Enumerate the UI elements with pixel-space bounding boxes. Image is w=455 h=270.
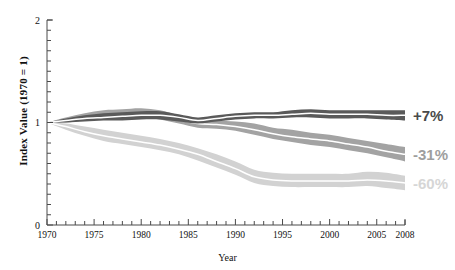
x-tick-label: 2000 — [320, 230, 339, 240]
series-end-label-+7%: +7% — [413, 107, 443, 124]
y-tick-label: 2 — [35, 15, 40, 26]
chart-figure: 012197019751980198519901995200020052008+… — [0, 0, 455, 270]
index-value-line-chart: 012197019751980198519901995200020052008+… — [0, 0, 455, 270]
series-band--60% — [47, 123, 405, 191]
y-tick-label: 0 — [35, 220, 40, 231]
x-tick-label: 1990 — [226, 230, 245, 240]
y-tick-label: 1 — [35, 117, 40, 128]
x-tick-label: 1970 — [38, 230, 57, 240]
x-tick-label: 2005 — [367, 230, 386, 240]
y-axis-title: Index Value (1970 = 1) — [17, 36, 29, 186]
x-axis-title: Year — [0, 252, 455, 263]
x-tick-label: 1980 — [132, 230, 151, 240]
series-end-label--60%: -60% — [413, 175, 448, 192]
x-tick-label: 2008 — [396, 230, 415, 240]
series-end-label--31%: -31% — [413, 146, 448, 163]
x-tick-label: 1975 — [85, 230, 104, 240]
x-tick-label: 1985 — [179, 230, 198, 240]
x-tick-label: 1995 — [273, 230, 292, 240]
